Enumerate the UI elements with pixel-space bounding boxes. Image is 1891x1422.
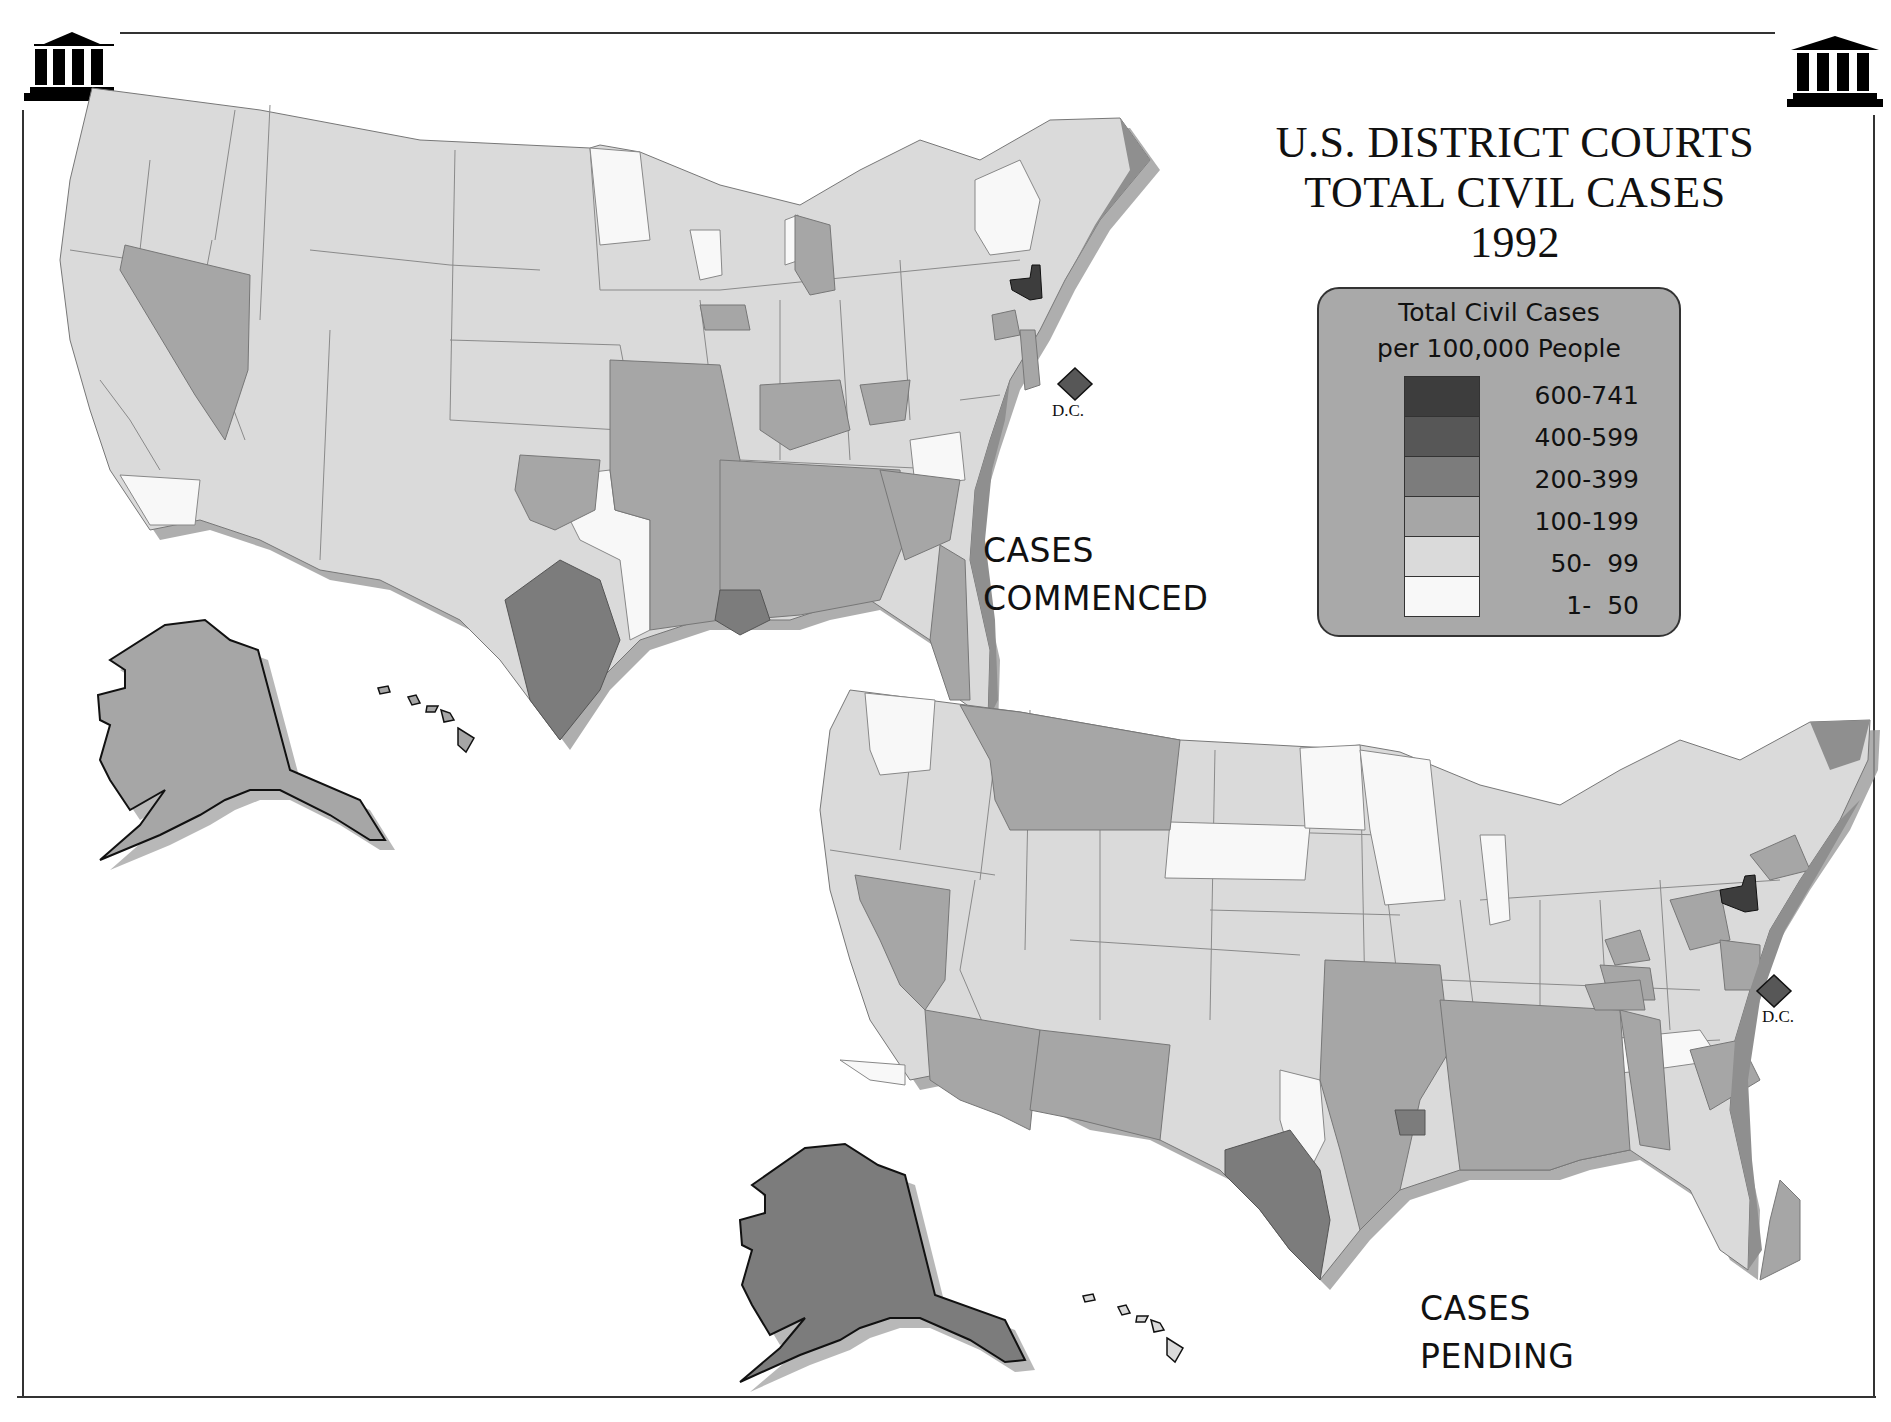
cases-pending-label-line-1: CASES — [1420, 1285, 1574, 1333]
legend-label: 1- 50 — [1489, 585, 1639, 627]
title-line-2: TOTAL CIVIL CASES — [1230, 168, 1800, 218]
legend-swatch-100-199 — [1404, 496, 1480, 537]
legend-swatch-200-399 — [1404, 456, 1480, 497]
legend-label: 200-399 — [1489, 459, 1639, 501]
cases-pending-label: CASES PENDING — [1420, 1285, 1574, 1381]
legend-title-line-1: Total Civil Cases — [1319, 295, 1679, 331]
cases-commenced-label: CASES COMMENCED — [983, 527, 1208, 623]
legend-label: 50- 99 — [1489, 543, 1639, 585]
dc-label-pending: D.C. — [1762, 1007, 1794, 1027]
legend-label: 600-741 — [1489, 375, 1639, 417]
cases-pending-label-line-2: PENDING — [1420, 1333, 1574, 1381]
legend-label: 100-199 — [1489, 501, 1639, 543]
legend-swatch-600-741 — [1404, 376, 1480, 417]
legend-swatch-50-99 — [1404, 536, 1480, 577]
legend-labels: 600-741 400-599 200-399 100-199 50- 99 1… — [1489, 375, 1649, 627]
map-legend: Total Civil Cases per 100,000 People 600… — [1317, 287, 1681, 637]
cases-commenced-label-line-1: CASES — [983, 527, 1208, 575]
title-line-1: U.S. DISTRICT COURTS — [1230, 118, 1800, 168]
legend-swatches — [1404, 377, 1480, 617]
legend-title-line-2: per 100,000 People — [1319, 331, 1679, 367]
legend-swatch-400-599 — [1404, 416, 1480, 457]
dc-label-commenced: D.C. — [1052, 401, 1084, 421]
legend-swatch-1-50 — [1404, 576, 1480, 617]
map-cases-pending — [740, 690, 1880, 1392]
cases-commenced-label-line-2: COMMENCED — [983, 575, 1208, 623]
page-title: U.S. DISTRICT COURTS TOTAL CIVIL CASES 1… — [1230, 118, 1800, 268]
title-line-3: 1992 — [1230, 218, 1800, 268]
legend-label: 400-599 — [1489, 417, 1639, 459]
legend-title: Total Civil Cases per 100,000 People — [1319, 295, 1679, 367]
